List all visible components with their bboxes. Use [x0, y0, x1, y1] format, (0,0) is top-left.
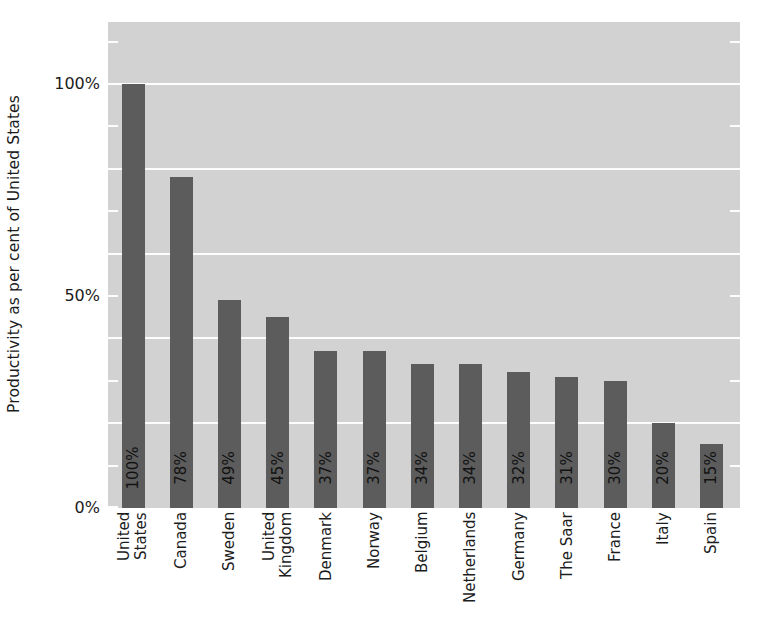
y-tick-label: 100%	[38, 76, 100, 92]
x-category-label-line: Norway	[366, 512, 383, 627]
bar-value-label: 37%	[316, 433, 336, 503]
bar-value-label: 34%	[460, 433, 480, 503]
bar-value-label: 49%	[219, 433, 239, 503]
bar[interactable]: 31%	[555, 377, 578, 508]
bar[interactable]: 78%	[170, 177, 193, 508]
bar-value-label: 30%	[605, 433, 625, 503]
x-category-label-line: France	[607, 512, 624, 627]
bar-value-label: 32%	[509, 433, 529, 503]
x-category-label-line: Denmark	[317, 512, 334, 627]
x-category-label-line: Spain	[703, 512, 720, 627]
bar[interactable]: 32%	[507, 372, 530, 508]
bar[interactable]: 100%	[122, 84, 145, 508]
bar-value-label: 15%	[701, 433, 721, 503]
x-category-label-line: Netherlands	[462, 512, 479, 627]
x-category-label-line: States	[133, 512, 150, 627]
bar[interactable]: 37%	[363, 351, 386, 508]
x-category-label-line: Kingdom	[278, 512, 295, 627]
bar-series: 100%78%49%45%37%37%34%34%32%31%30%20%15%	[108, 22, 740, 508]
x-category-label: Canada	[170, 512, 193, 630]
bar-value-label: 45%	[268, 433, 288, 503]
y-tick-label: 0%	[38, 500, 100, 516]
x-category-label: France	[604, 512, 627, 630]
x-category-label: Germany	[507, 512, 530, 630]
bar[interactable]: 49%	[218, 300, 241, 508]
y-tick-label: 50%	[38, 288, 100, 304]
bar[interactable]: 37%	[314, 351, 337, 508]
x-category-label-line: Italy	[655, 512, 672, 627]
x-category-label: Netherlands	[459, 512, 482, 630]
x-category-label: Norway	[363, 512, 386, 630]
x-category-label: Sweden	[218, 512, 241, 630]
bar-value-label: 20%	[653, 433, 673, 503]
x-category-label: Belgium	[411, 512, 434, 630]
bar-value-label: 37%	[364, 433, 384, 503]
x-category-label-line: Canada	[173, 512, 190, 627]
bar[interactable]: 20%	[652, 423, 675, 508]
bar-value-label: 78%	[171, 433, 191, 503]
x-category-label-line: Sweden	[221, 512, 238, 627]
x-category-label-line: The Saar	[558, 512, 575, 627]
x-category-label-line: United	[261, 512, 278, 627]
x-category-label: UnitedStates	[122, 512, 145, 630]
x-category-label: The Saar	[555, 512, 578, 630]
x-category-label: UnitedKingdom	[266, 512, 289, 630]
productivity-bar-chart: Productivity as per cent of United State…	[0, 0, 759, 639]
bar[interactable]: 30%	[604, 381, 627, 508]
x-category-label: Denmark	[314, 512, 337, 630]
bar[interactable]: 15%	[700, 444, 723, 508]
y-axis-tick-labels: 100%50%0%	[36, 0, 100, 639]
x-category-label-line: Belgium	[414, 512, 431, 627]
x-category-label-line: United	[116, 512, 133, 627]
bar-value-label: 31%	[557, 433, 577, 503]
bar-value-label: 100%	[123, 433, 143, 503]
bar[interactable]: 34%	[459, 364, 482, 508]
bar[interactable]: 34%	[411, 364, 434, 508]
y-axis-title: Productivity as per cent of United State…	[0, 0, 28, 508]
bar[interactable]: 45%	[266, 317, 289, 508]
x-category-label: Italy	[652, 512, 675, 630]
x-axis-category-labels: UnitedStatesCanadaSwedenUnitedKingdomDen…	[108, 512, 740, 632]
bar-value-label: 34%	[412, 433, 432, 503]
plot-area: 100%78%49%45%37%37%34%34%32%31%30%20%15%	[108, 22, 740, 508]
x-category-label-line: Germany	[510, 512, 527, 627]
x-category-label: Spain	[700, 512, 723, 630]
